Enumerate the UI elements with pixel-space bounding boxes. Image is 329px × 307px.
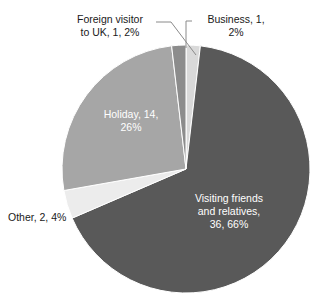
slice-label-business: Business, 1, 2% (188, 13, 284, 39)
pie-chart-canvas (0, 0, 329, 307)
slice-label-visiting-friends: Visiting friends and relatives, 36, 66% (172, 192, 286, 231)
slice-label-foreign-visitor: Foreign visitor to UK, 1, 2% (56, 13, 164, 39)
slice-label-holiday: Holiday, 14, 26% (84, 108, 178, 134)
pie-chart: Foreign visitor to UK, 1, 2% Business, 1… (0, 0, 329, 307)
pie-slices (62, 45, 310, 293)
slice-label-other: Other, 2, 4% (8, 211, 102, 224)
